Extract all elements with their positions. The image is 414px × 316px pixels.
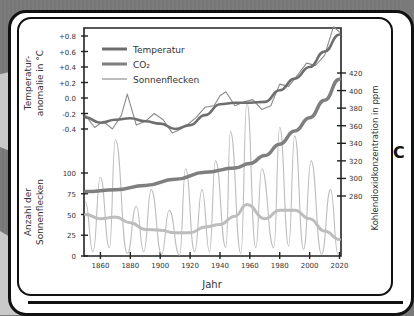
legend-label: Sonnenflecken (133, 75, 199, 85)
co2-tick-label: 300 (349, 175, 362, 183)
temp-tick-label: +0.8 (59, 33, 76, 41)
legend-label: CO₂ (133, 60, 150, 70)
year-tick-label: 2020 (331, 262, 349, 270)
year-tick-label: 1900 (151, 262, 169, 270)
sunspot-tick-label: 25 (67, 232, 76, 240)
co2-axis-title: Kohlendioxidkonzentration in ppm (370, 85, 380, 230)
co2-tick-label: 340 (349, 140, 362, 148)
temp-axis-title: Temperatur- (23, 56, 33, 111)
temp-tick-label: -0.2 (62, 111, 76, 119)
x-axis-title: Jahr (201, 279, 222, 290)
co2-tick-label: 320 (349, 158, 362, 166)
year-tick-label: 1860 (92, 262, 110, 270)
year-tick-label: 1960 (241, 262, 259, 270)
co2-tick-label: 400 (349, 88, 362, 96)
legend-label: Temperatur (132, 45, 185, 55)
year-tick-label: 2000 (301, 262, 319, 270)
co2-tick-label: 280 (349, 193, 362, 201)
sunspot-tick-label: 100 (63, 170, 76, 178)
sunspot-axis-title: Sonnenflecken (35, 179, 45, 245)
sunspot-axis-title: Anzahl der (23, 188, 33, 236)
year-tick-label: 1880 (121, 262, 139, 270)
temp-tick-label: +0.6 (59, 49, 77, 57)
sunspot-tick-label: 0 (72, 253, 76, 261)
co2-line (86, 79, 340, 191)
year-tick-label: 1920 (181, 262, 199, 270)
temp-tick-label: +0.2 (59, 80, 76, 88)
sunspot-tick-label: 50 (67, 212, 76, 220)
temp-axis-title: anomalie in °C (35, 50, 45, 116)
co2-tick-label: 420 (349, 70, 362, 78)
temp-tick-label: +0.4 (59, 64, 77, 72)
legend: TemperaturCO₂Sonnenflecken (102, 45, 199, 85)
year-tick-label: 1980 (271, 262, 289, 270)
temp-tick-label: 0.0 (65, 95, 76, 103)
side-glyph: C (393, 143, 405, 162)
sunspot-tick-label: 75 (67, 191, 76, 199)
year-tick-label: 1940 (211, 262, 229, 270)
temp-tick-label: -0.4 (62, 126, 76, 134)
co2-tick-label: 360 (349, 123, 362, 131)
co2-tick-label: 380 (349, 105, 362, 113)
